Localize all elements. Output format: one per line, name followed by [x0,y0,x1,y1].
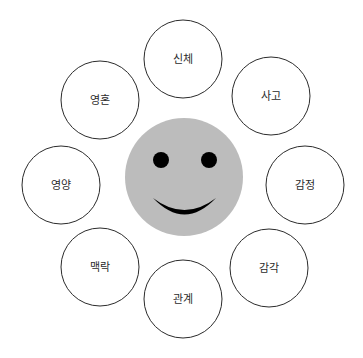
node-gwangye[interactable]: 관계 [144,260,222,338]
node-sinche-label: 신체 [173,53,193,66]
node-yeongyang[interactable]: 영양 [22,146,100,224]
node-maengnak-label: 맥락 [90,261,110,274]
left-eye-icon [153,152,169,168]
node-sago-label: 사고 [261,90,281,103]
node-yeonghon-label: 영혼 [90,94,110,107]
node-gamjeong-label: 감정 [295,179,315,192]
node-sago[interactable]: 사고 [232,57,310,135]
node-gamgak-label: 감각 [259,262,279,275]
node-yeonghon[interactable]: 영혼 [61,61,139,139]
node-sinche[interactable]: 신체 [144,20,222,98]
node-yeongyang-label: 영양 [51,179,71,192]
right-eye-icon [201,152,217,168]
diagram-canvas: 신체 사고 감정 감각 관계 맥락 [0,0,363,358]
radial-diagram: 신체 사고 감정 감각 관계 맥락 [0,0,363,358]
node-maengnak[interactable]: 맥락 [61,228,139,306]
node-gamgak[interactable]: 감각 [230,229,308,307]
smiley-face-hub [125,118,243,236]
face-base-circle [125,118,243,236]
node-gwangye-label: 관계 [173,293,193,306]
node-gamjeong[interactable]: 감정 [266,146,344,224]
